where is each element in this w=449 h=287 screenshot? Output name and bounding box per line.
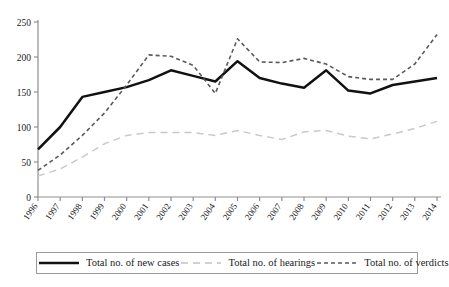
y-axis-tick-label: 150: [17, 88, 32, 98]
legend-item-new-cases: Total no. of new cases: [37, 258, 179, 269]
y-axis-tick-label: 0: [26, 193, 31, 203]
y-axis-tick-label: 50: [22, 158, 32, 168]
x-axis-tick-label: 2002: [154, 201, 173, 221]
x-axis-tick-label: 2008: [287, 201, 306, 222]
x-axis-tick-label: 2013: [398, 201, 417, 222]
x-axis-tick-label: 2006: [243, 201, 262, 222]
legend-label-new-cases: Total no. of new cases: [86, 258, 179, 269]
chart-plot-area: 0501001502002501996199719981999200020012…: [0, 0, 448, 250]
x-axis-tick-label: 2007: [265, 201, 284, 222]
x-axis-tick-label: 2014: [420, 201, 439, 222]
x-axis-tick-label: 2011: [354, 201, 372, 221]
series-line-total-no-of-verdicts: [38, 35, 437, 171]
series-line-total-no-of-new-cases: [38, 61, 437, 149]
solid-line-swatch: [37, 258, 81, 268]
long-dash-line-swatch: [179, 258, 223, 268]
x-axis-tick-label: 2001: [132, 201, 151, 221]
x-axis-tick-label: 2009: [309, 201, 328, 222]
y-axis-tick-label: 200: [17, 53, 32, 63]
x-axis-tick-label: 2003: [176, 201, 195, 222]
x-axis-tick-label: 2005: [221, 201, 240, 222]
legend-item-verdicts: Total no. of verdicts: [315, 258, 448, 269]
x-axis-tick-label: 2012: [376, 201, 395, 221]
x-axis-tick-label: 2010: [331, 201, 350, 222]
legend-label-verdicts: Total no. of verdicts: [364, 258, 448, 269]
x-axis-tick-label: 1998: [65, 201, 84, 222]
short-dash-line-swatch: [315, 258, 359, 268]
chart-legend: Total no. of new cases Total no. of hear…: [36, 252, 418, 274]
legend-label-hearings: Total no. of hearings: [228, 258, 315, 269]
series-line-total-no-of-hearings: [38, 121, 437, 176]
x-axis-tick-label: 1999: [88, 201, 107, 222]
legend-item-hearings: Total no. of hearings: [179, 258, 315, 269]
x-axis-tick-label: 2004: [198, 201, 217, 222]
y-axis-tick-label: 250: [17, 18, 32, 28]
x-axis-tick-label: 2000: [110, 201, 129, 222]
x-axis-tick-label: 1996: [21, 201, 40, 222]
x-axis-tick-label: 1997: [43, 201, 62, 222]
y-axis-tick-label: 100: [17, 123, 32, 133]
